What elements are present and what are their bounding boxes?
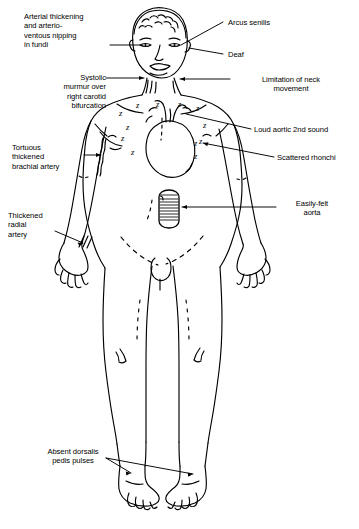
pelvis-group (121, 236, 203, 290)
groin-crease-right (166, 236, 203, 264)
ankle-left-inner (145, 442, 146, 466)
leg-left-outer (103, 268, 117, 444)
label-loud-aortic-2nd: Loud aortic 2nd sound (254, 125, 358, 134)
brachial-artery (97, 138, 103, 175)
rhonchi-z-mark: z (194, 139, 197, 148)
hair-stroke (166, 17, 173, 21)
leg-right-outer (208, 267, 222, 443)
foot-left-instep (126, 481, 143, 484)
abdominal-aorta-group (159, 190, 179, 228)
toe-left-2 (135, 497, 143, 509)
neck-group (142, 78, 181, 95)
toe-right-2 (182, 497, 190, 509)
pupil-left (144, 44, 146, 46)
axilla-right (216, 124, 228, 136)
finger-left-1 (61, 270, 66, 283)
hair-stroke (142, 19, 149, 22)
knee-left (119, 349, 126, 363)
radial-artery-stroke (87, 237, 92, 248)
foot-right-instep (182, 481, 199, 484)
toe-right-3 (175, 500, 182, 510)
hair-stroke (155, 22, 162, 24)
rhonchi-z-mark: z (199, 137, 202, 146)
leader-rhonchi (203, 143, 274, 157)
finger-right-4 (237, 274, 244, 285)
pupil-right (173, 44, 175, 46)
label-deaf: Deaf (228, 50, 338, 59)
head-group (130, 8, 191, 78)
aorta-hatching (160, 195, 178, 220)
shin-line-right (186, 300, 189, 342)
vessel-branch (146, 116, 152, 122)
leader-aortic-2nd (186, 114, 251, 129)
rhonchi-z-mark: z (119, 109, 122, 118)
rhonchi-z-mark: z (203, 121, 206, 130)
brachial-artery (100, 139, 106, 176)
leader-deaf (189, 48, 223, 54)
hair-stroke (164, 22, 171, 25)
neck-line-right (173, 81, 175, 93)
arrowhead-aorta (182, 205, 187, 209)
label-scattered-rhonchi: Scattered rhonchi (277, 153, 359, 162)
knee-right (194, 348, 201, 362)
finger-right-2 (252, 273, 257, 287)
carotid-line (150, 81, 152, 93)
legs-group (103, 266, 222, 466)
finger-left-3 (75, 275, 81, 288)
rhonchi-z-mark: z (121, 134, 124, 143)
knee-right-detail (201, 351, 204, 360)
hair-stroke (171, 27, 175, 32)
aorta-tube (159, 190, 179, 228)
hair-stroke (158, 15, 166, 18)
hair-stroke (150, 16, 158, 18)
rhonchi-z-mark: z (156, 100, 159, 109)
heart-group (146, 101, 195, 178)
mouth (150, 64, 170, 70)
rib-left (110, 148, 121, 150)
sternum-line (161, 118, 162, 140)
hair-stroke (174, 21, 178, 28)
hair-stroke (139, 26, 144, 28)
nose (155, 45, 163, 61)
carotid-line (155, 82, 156, 93)
diagram-canvas: z z z z z z z z z z z z Arterial thicken… (0, 0, 359, 529)
foot-left-outline (119, 466, 160, 506)
eyebrow-left (140, 38, 151, 40)
knee-left-detail (116, 352, 119, 361)
torso-left-outline (83, 95, 142, 268)
rhonchi-z-mark: z (126, 123, 129, 132)
finger-left-4 (81, 274, 88, 285)
eyebrow-right (169, 38, 180, 40)
finger-left-2 (68, 273, 73, 287)
abdomen-line (146, 200, 152, 222)
finger-right-3 (244, 275, 250, 288)
label-limitation-neck: Limitation of neck movement (234, 75, 348, 94)
rhonchi-z-mark: z (196, 104, 199, 113)
ankle-left-outer (117, 444, 120, 466)
rhonchi-z-mark: z (131, 148, 134, 157)
foot-right-outline (166, 466, 207, 506)
nipple-right (203, 135, 211, 137)
feet-group (119, 466, 207, 510)
heart-outline (146, 121, 195, 177)
label-absent-dorsalis: Absent dorsalis pedis pulses (36, 447, 110, 466)
arrowhead-neck (180, 77, 185, 81)
label-easily-felt-aorta: Easily-felt aorta (281, 199, 343, 218)
great-vessel (163, 104, 166, 122)
ankle-right-inner (179, 442, 180, 466)
heart-apex (186, 164, 192, 172)
shin-line-left (137, 300, 140, 342)
torso-right-outline (181, 95, 242, 267)
leg-right-inner (173, 266, 179, 442)
rhonchi-z-mark: z (194, 152, 197, 161)
label-arcus-senilis: Arcus senilis (228, 18, 338, 27)
label-thickened-radial: Thickened radial artery (8, 211, 68, 239)
rhonchi-z-mark: z (136, 101, 139, 110)
toe-left-3 (143, 500, 150, 510)
hair-stroke (145, 26, 152, 28)
label-arterial-thickening: Arterial thickening and arterio- ventous… (24, 12, 114, 49)
genital-outline (151, 258, 171, 281)
leg-left-inner (146, 266, 152, 442)
pulmonary-trunk (170, 109, 171, 122)
nipple-left (108, 136, 116, 138)
